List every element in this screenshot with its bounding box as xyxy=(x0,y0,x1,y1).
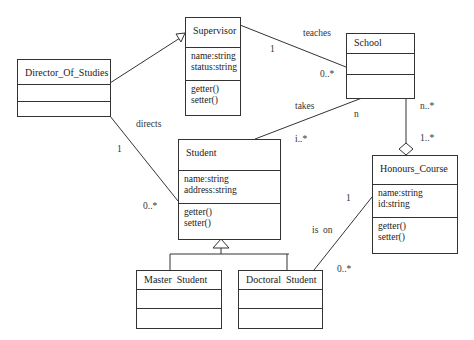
label-directs: directs xyxy=(136,119,161,129)
attribute: name:string xyxy=(191,51,235,62)
attributes-section: name:string address:string xyxy=(179,170,280,203)
class-student[interactable]: Student name:string address:string gette… xyxy=(178,139,281,240)
method: setter() xyxy=(184,218,275,229)
attributes-section xyxy=(239,289,322,308)
multiplicity-is-on-honours: 1 xyxy=(346,193,351,203)
class-name: School xyxy=(347,34,414,53)
method: getter() xyxy=(191,84,235,95)
generalization-arrowhead-icon xyxy=(176,33,185,42)
multiplicity-teaches-school: 0..* xyxy=(320,69,334,79)
label-is-on: is on xyxy=(312,225,333,235)
methods-section xyxy=(347,74,414,98)
methods-section: getter() setter() xyxy=(186,80,240,109)
method: getter() xyxy=(184,207,275,218)
methods-section xyxy=(18,101,110,116)
class-name: Master Student xyxy=(137,271,221,289)
class-school[interactable]: School xyxy=(346,33,415,99)
multiplicity-teaches-supervisor: 1 xyxy=(270,44,275,54)
inheritance-arrowhead-icon xyxy=(213,239,229,248)
class-name: Director_Of_Studies xyxy=(18,60,110,84)
multiplicity-takes-student: i..* xyxy=(295,134,307,144)
attributes-section xyxy=(347,53,414,74)
attribute: status:string xyxy=(191,62,235,73)
class-name: Supervisor xyxy=(186,18,240,47)
multiplicity-directs-student: 0..* xyxy=(143,201,157,211)
method: getter() xyxy=(378,221,452,232)
class-name: Doctoral Student xyxy=(239,271,322,289)
multiplicity-is-on-doctoral: 0..* xyxy=(337,264,351,274)
attributes-section: name:string status:string xyxy=(186,47,240,80)
label-takes: takes xyxy=(295,101,315,111)
class-master-student[interactable]: Master Student xyxy=(136,270,222,329)
class-director-of-studies[interactable]: Director_Of_Studies xyxy=(17,59,111,117)
class-supervisor[interactable]: Supervisor name:string status:string get… xyxy=(185,17,241,116)
multiplicity-aggregation-school: n..* xyxy=(420,101,434,111)
methods-section: getter() setter() xyxy=(179,203,280,232)
attributes-section: name:string id:string xyxy=(373,184,457,217)
methods-section xyxy=(239,308,322,328)
multiplicity-directs-director: 1 xyxy=(117,144,122,154)
method: setter() xyxy=(191,95,235,106)
class-name: Student xyxy=(179,140,280,170)
class-honours-course[interactable]: Honours_Course name:string id:string get… xyxy=(372,155,458,254)
class-name: Honours_Course xyxy=(373,156,457,184)
attributes-section xyxy=(137,289,221,308)
multiplicity-takes-school: n xyxy=(354,109,359,119)
multiplicity-aggregation-honours: 1..* xyxy=(420,133,434,143)
aggregation-diamond-icon xyxy=(399,143,413,155)
methods-section xyxy=(137,308,221,328)
label-teaches: teaches xyxy=(303,28,331,38)
generalization-director-supervisor xyxy=(110,38,180,83)
class-doctoral-student[interactable]: Doctoral Student xyxy=(238,270,323,329)
attribute: address:string xyxy=(184,185,275,196)
method: setter() xyxy=(378,232,452,243)
attributes-section xyxy=(18,84,110,101)
attribute: id:string xyxy=(378,199,452,210)
attribute: name:string xyxy=(184,174,275,185)
attribute: name:string xyxy=(378,188,452,199)
methods-section: getter() setter() xyxy=(373,217,457,246)
